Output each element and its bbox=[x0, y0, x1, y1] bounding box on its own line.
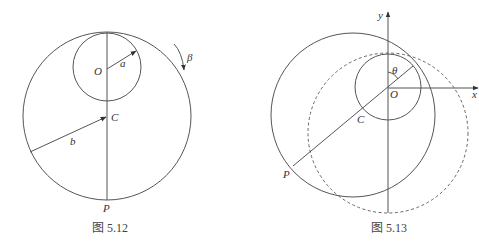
label-y: y bbox=[377, 9, 383, 21]
label-C: C bbox=[111, 111, 119, 123]
caption-fig-5-12: 图 5.12 bbox=[92, 221, 128, 235]
label-P: P bbox=[102, 202, 110, 214]
label-a: a bbox=[120, 57, 126, 69]
solid-large-circle bbox=[271, 33, 435, 197]
label-theta: θ bbox=[392, 64, 398, 76]
label-O: O bbox=[94, 65, 102, 77]
rotation-beta-arrow bbox=[174, 44, 184, 70]
caption-fig-5-13: 图 5.13 bbox=[371, 221, 407, 235]
label-b: b bbox=[70, 135, 76, 147]
label-C: C bbox=[357, 113, 365, 125]
label-x: x bbox=[471, 88, 477, 100]
label-O: O bbox=[390, 88, 398, 100]
figure-5-13: y x θ O C P 图 5.13 bbox=[271, 9, 478, 235]
figure-5-12: O a C b P β 图 5.12 bbox=[23, 32, 193, 235]
label-P: P bbox=[282, 168, 290, 180]
label-beta: β bbox=[186, 51, 193, 63]
line-P-to-tangent bbox=[293, 66, 413, 166]
diagram-canvas: O a C b P β 图 5.12 y x θ O C P 图 5.13 bbox=[0, 0, 479, 247]
radius-b-arrow bbox=[30, 117, 106, 152]
